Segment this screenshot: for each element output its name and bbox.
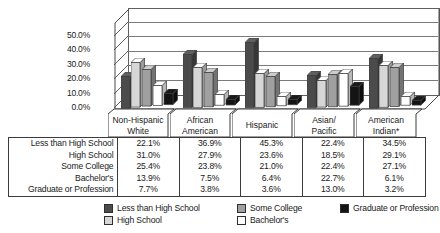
data-table: Less than High School22.1%36.9%45.3%22.4… <box>8 137 426 197</box>
bar <box>401 97 410 106</box>
table-cell: 22.7% <box>302 173 364 185</box>
bar <box>307 76 316 108</box>
table-row-label: Some College <box>9 161 118 173</box>
bar <box>121 76 130 108</box>
table-cell: 45.3% <box>241 138 303 150</box>
category-label: AmericanIndian* <box>356 115 416 136</box>
bar <box>369 58 378 108</box>
table-cell: 25.4% <box>118 161 180 173</box>
table-cell: 22.1% <box>118 138 180 150</box>
table-cell: 31.0% <box>118 150 180 162</box>
table-cell: 18.5% <box>302 150 364 162</box>
bar-3d-faces <box>226 95 242 107</box>
bar <box>288 100 297 105</box>
bar <box>183 55 192 108</box>
y-axis-tick-label: 50.0% <box>38 30 90 40</box>
left-wall-tick-edge <box>114 50 130 66</box>
category-label: Non-HispanicWhite <box>108 115 168 136</box>
bar <box>255 73 264 107</box>
bar <box>339 73 348 106</box>
bar <box>226 100 235 105</box>
table-cell: 27.9% <box>179 150 241 162</box>
y-axis-tick-label: 20.0% <box>38 73 90 83</box>
legend-swatch-icon <box>104 216 113 225</box>
y-axis-tick-label: 10.0% <box>38 88 90 98</box>
table-cell: 21.0% <box>241 161 303 173</box>
y-axis-tick-label: 40.0% <box>38 44 90 54</box>
bar <box>215 95 224 106</box>
table-cell: 36.9% <box>179 138 241 150</box>
legend-item: High School <box>104 215 162 225</box>
legend-label: Graduate or Profession <box>353 203 439 213</box>
y-axis-tick-label: 30.0% <box>38 59 90 69</box>
chart-legend: Less than High SchoolHigh SchoolSome Col… <box>104 203 433 229</box>
legend-swatch-icon <box>237 204 246 213</box>
left-wall-tick-edge <box>114 35 130 51</box>
table-cell: 22.4% <box>302 138 364 150</box>
bar-3d-faces <box>412 96 428 107</box>
data-table-grid: Less than High School22.1%36.9%45.3%22.4… <box>9 138 425 196</box>
table-row: Bachelor's13.9%7.5%6.4%22.7%6.1% <box>9 173 425 185</box>
legend-swatch-icon <box>104 204 113 213</box>
legend-item: Some College <box>237 203 302 213</box>
data-table-body: Less than High School22.1%36.9%45.3%22.4… <box>9 138 425 196</box>
bar <box>266 76 275 106</box>
bar <box>379 65 388 107</box>
table-cell: 7.7% <box>118 184 180 196</box>
table-cell: 27.1% <box>364 161 425 173</box>
table-cell: 23.6% <box>241 150 303 162</box>
legend-item: Bachelor's <box>237 215 288 225</box>
table-cell: 29.1% <box>364 150 425 162</box>
bar <box>142 70 151 107</box>
legend-label: Less than High School <box>117 203 200 213</box>
category-label: AfricanAmerican <box>170 115 230 136</box>
bar <box>390 67 399 106</box>
table-cell: 22.4% <box>302 161 364 173</box>
bar <box>193 67 202 107</box>
bar <box>245 43 254 108</box>
table-cell: 3.6% <box>241 184 303 196</box>
bar <box>277 97 286 106</box>
table-cell: 6.1% <box>364 173 425 185</box>
category-axis-header: Non-HispanicWhiteAfricanAmericanHispanic… <box>0 108 433 138</box>
category-label: Asian/Pacific <box>294 115 354 136</box>
table-row: Graduate or Profession7.7%3.8%3.6%13.0%3… <box>9 184 425 196</box>
bar-3d-faces <box>350 82 366 107</box>
category-label: Hispanic <box>232 115 292 131</box>
top-left-edge <box>114 8 130 24</box>
bar <box>317 81 326 108</box>
gridline <box>128 36 438 37</box>
table-cell: 7.5% <box>179 173 241 185</box>
bar <box>350 86 359 105</box>
legend-label: Some College <box>250 203 302 213</box>
table-cell: 23.8% <box>179 161 241 173</box>
legend-item: Less than High School <box>104 203 200 213</box>
y-axis-line <box>114 22 116 110</box>
table-row-label: Graduate or Profession <box>9 184 118 196</box>
table-row-label: Bachelor's <box>9 173 118 185</box>
bar <box>131 63 140 108</box>
table-cell: 13.9% <box>118 173 180 185</box>
gridline <box>128 51 438 52</box>
table-row-label: High School <box>9 150 118 162</box>
legend-label: Bachelor's <box>250 215 288 225</box>
table-row: High School31.0%27.9%23.6%18.5%29.1% <box>9 150 425 162</box>
table-row: Some College25.4%23.8%21.0%22.4%27.1% <box>9 161 425 173</box>
table-cell: 6.4% <box>241 173 303 185</box>
legend-item: Graduate or Profession <box>340 203 439 213</box>
table-row: Less than High School22.1%36.9%45.3%22.4… <box>9 138 425 150</box>
table-cell: 34.5% <box>364 138 425 150</box>
bar <box>153 86 162 106</box>
legend-label: High School <box>117 215 162 225</box>
table-cell: 13.0% <box>302 184 364 196</box>
bar <box>164 94 173 105</box>
table-cell: 3.2% <box>364 184 425 196</box>
gridline <box>128 22 438 23</box>
bar <box>328 74 337 106</box>
table-row-label: Less than High School <box>9 138 118 150</box>
table-cell: 3.8% <box>179 184 241 196</box>
bar-3d-faces <box>164 89 180 107</box>
bar <box>204 72 213 106</box>
legend-swatch-icon <box>237 216 246 225</box>
bar <box>412 100 421 105</box>
